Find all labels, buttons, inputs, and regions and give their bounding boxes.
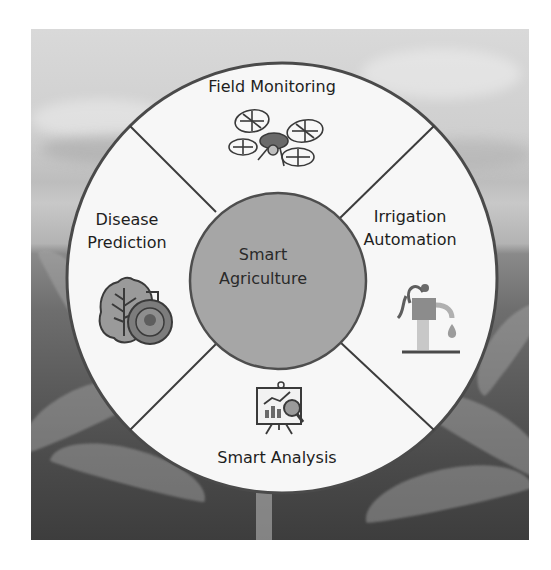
disease-prediction-line1: Disease bbox=[87, 208, 166, 231]
irrigation-automation-line1: Irrigation bbox=[363, 205, 456, 228]
segment-label-disease-prediction: Disease Prediction bbox=[87, 208, 166, 254]
disease-prediction-line2: Prediction bbox=[87, 231, 166, 254]
smart-analysis-text: Smart Analysis bbox=[217, 448, 336, 467]
center-title-line1: Smart bbox=[219, 243, 307, 267]
center-title-line2: Agriculture bbox=[219, 267, 307, 291]
segment-label-field-monitoring: Field Monitoring bbox=[208, 75, 336, 98]
segment-label-irrigation-automation: Irrigation Automation bbox=[363, 205, 456, 251]
segment-label-smart-analysis: Smart Analysis bbox=[217, 446, 336, 469]
field-monitoring-text: Field Monitoring bbox=[208, 77, 336, 96]
center-title: Smart Agriculture bbox=[219, 243, 307, 291]
irrigation-automation-line2: Automation bbox=[363, 228, 456, 251]
